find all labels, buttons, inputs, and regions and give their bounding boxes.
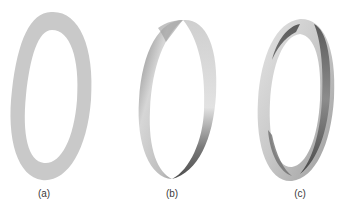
annulus-shape (10, 12, 91, 180)
panel-c-ring (258, 19, 335, 181)
ring-figure (0, 0, 349, 213)
panel-b-label: (b) (166, 188, 178, 199)
panel-a-label: (a) (38, 188, 50, 199)
band-right-surface (172, 20, 216, 179)
panel-c-label: (c) (294, 188, 306, 199)
panel-b-ring (139, 20, 217, 179)
band-left-surface (139, 20, 183, 179)
panel-a-ring (10, 12, 91, 180)
